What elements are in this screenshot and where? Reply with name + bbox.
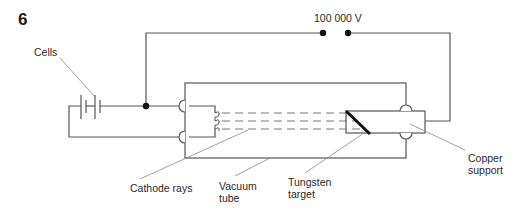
leader-vacuum-tube [235,158,270,176]
cathode-rays [222,113,364,129]
label-cathode-rays: Cathode rays [130,182,192,194]
battery-cells-icon [81,95,100,119]
terminal-right [345,30,351,36]
filament-icon [215,112,219,131]
hv-wire-left [146,33,321,106]
label-vacuum-tube: Vacuum tube [219,180,257,204]
label-cells: Cells [34,46,57,58]
leader-cells [60,58,96,98]
terminal-left [320,30,326,36]
label-tungsten-target: Tungsten target [288,176,331,200]
voltage-label: 100 000 V [314,12,362,24]
leader-tungsten [305,133,364,173]
leader-copper [410,124,465,150]
x-ray-tube-diagram [0,0,526,218]
junction-dot [143,103,149,109]
label-copper-support: Copper support [468,152,503,176]
hv-wire-right [350,33,450,121]
